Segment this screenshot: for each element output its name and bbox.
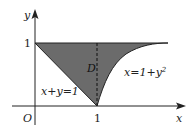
x-axis-label: x: [176, 112, 183, 125]
parabola-label-exponent: 2: [161, 66, 167, 74]
y-axis-label: y: [23, 9, 31, 22]
x-tick-label: 1: [94, 112, 101, 125]
origin-label: O: [23, 112, 32, 125]
line-label: x+y=1: [41, 85, 79, 98]
region-diagram: y x O 1 1 D x+y=1 x=1+y2: [0, 0, 194, 136]
y-tick-label: 1: [24, 37, 31, 50]
parabola-label-base: x=1+y: [124, 66, 163, 79]
region-label: D: [86, 62, 96, 75]
parabola-label: x=1+y2: [124, 66, 167, 79]
